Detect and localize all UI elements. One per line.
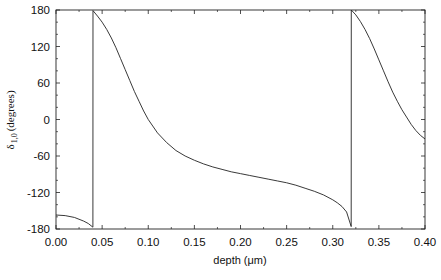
y-axis-title: δ1,0(degrees)	[4, 90, 19, 149]
y-tick-label: -180	[27, 223, 50, 235]
x-tick-label: 0.30	[322, 236, 344, 248]
x-tick-label: 0.00	[45, 236, 67, 248]
x-tick-label: 0.40	[414, 236, 436, 248]
x-tick-label: 0.05	[91, 236, 113, 248]
x-axis-title: depth (μm)	[213, 254, 266, 266]
x-tick-label: 0.35	[368, 236, 390, 248]
y-tick-label: 60	[37, 77, 50, 89]
y-axis-unit: (degrees)	[4, 90, 17, 131]
plot-frame	[56, 10, 425, 229]
y-tick-label: 180	[31, 4, 50, 16]
x-axis-tick-labels: 0.000.050.100.150.200.250.300.350.40	[45, 236, 436, 248]
x-tick-label: 0.10	[137, 236, 159, 248]
x-axis-ticks	[56, 10, 425, 229]
y-tick-label: 0	[44, 114, 50, 126]
x-tick-label: 0.20	[229, 236, 251, 248]
y-axis-ticks	[56, 10, 425, 229]
series-line	[56, 10, 425, 227]
y-axis-subscript: 1,0	[10, 133, 19, 143]
y-tick-label: -60	[33, 150, 50, 162]
x-tick-label: 0.15	[183, 236, 205, 248]
y-axis-symbol: δ	[4, 144, 16, 149]
y-axis-tick-labels: 180120600-60-120-180	[27, 4, 50, 235]
x-tick-label: 0.25	[275, 236, 297, 248]
y-tick-label: -120	[27, 187, 50, 199]
chart: 0.000.050.100.150.200.250.300.350.40 180…	[0, 0, 441, 280]
y-tick-label: 120	[31, 41, 50, 53]
